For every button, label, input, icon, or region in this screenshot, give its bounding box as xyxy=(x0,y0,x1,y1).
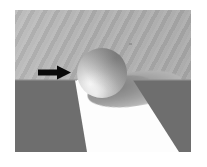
scene-figure xyxy=(0,0,207,167)
annotation-arrow-icon xyxy=(38,65,71,80)
groove-left-wedge xyxy=(15,80,87,152)
groove-right-top-edge xyxy=(131,79,191,81)
render-area xyxy=(15,10,191,152)
sphere-specular-highlight xyxy=(77,48,127,98)
wall-speck xyxy=(129,43,132,45)
